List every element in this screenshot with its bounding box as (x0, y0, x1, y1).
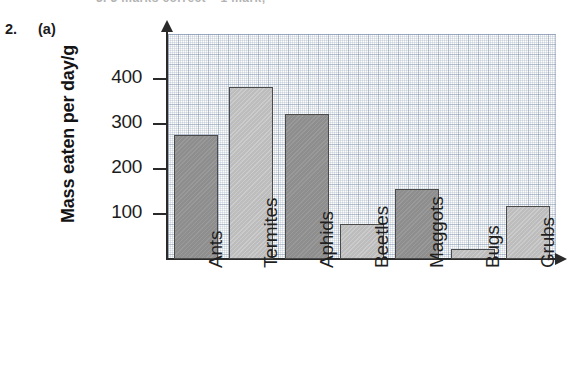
y-axis-tick-mark (153, 213, 167, 215)
y-axis-tick-mark (153, 123, 167, 125)
x-axis-label-text: Bugs (482, 225, 504, 268)
x-axis-label-text: Maggots (426, 197, 448, 268)
x-axis-label-text: Termites (260, 198, 282, 268)
x-axis-label-text: Beetles (371, 206, 393, 268)
y-axis-tick-label: 400 (86, 66, 142, 88)
y-axis-tick-mark (153, 78, 167, 80)
y-axis-line (166, 30, 168, 260)
x-axis-label-text: Grubs (537, 217, 559, 268)
y-axis-tick-label: 300 (86, 111, 142, 133)
bar-chart: 100200300400 AntsTermitesAphidsBeetlesMa… (0, 0, 578, 371)
y-axis-tick-label: 100 (86, 201, 142, 223)
y-axis-arrowhead-icon (161, 20, 173, 32)
x-axis-label-text: Ants (205, 231, 227, 268)
exercise-page: 3. 3 marks correct – 1 mark; 2. (a) Mass… (0, 0, 578, 371)
x-axis-label-text: Aphids (316, 211, 338, 268)
y-axis-tick-label: 200 (86, 156, 142, 178)
y-axis-tick-mark (153, 168, 167, 170)
